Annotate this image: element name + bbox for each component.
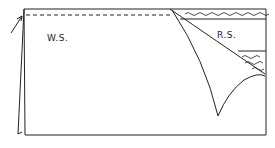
right-side-label: R.S. (217, 30, 236, 40)
fabric-outline (24, 9, 266, 135)
back-layer-edge (18, 9, 24, 134)
fabric-fold-illustration (0, 0, 275, 148)
pointer-line (11, 16, 22, 33)
wrong-side-label: W.S. (47, 33, 68, 43)
lace-pattern-side (242, 56, 264, 71)
sewing-diagram: W.S. R.S. (0, 0, 275, 148)
lace-pattern-top (185, 13, 269, 16)
